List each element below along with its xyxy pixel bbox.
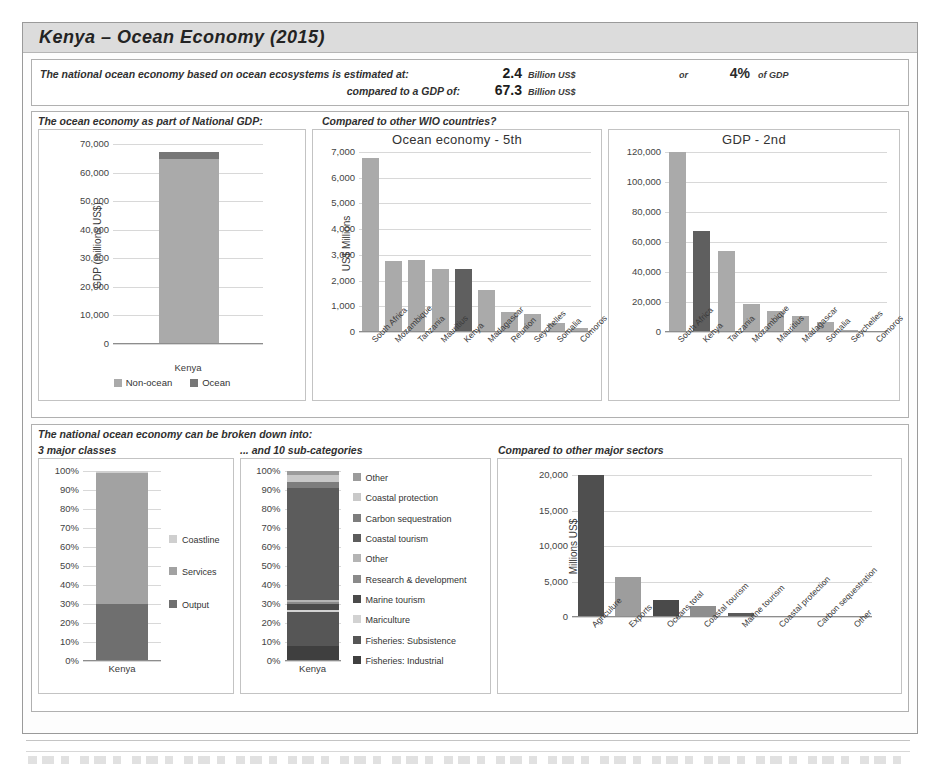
y-tick-label: 0 — [656, 326, 661, 337]
stack-segment — [96, 604, 148, 661]
page-title-band: Kenya – Ocean Economy (2015) — [23, 23, 917, 53]
summary-banner: The national ocean economy based on ocea… — [31, 59, 909, 106]
y-tick-label: 60% — [60, 541, 79, 552]
x-tick-label: Madagascar — [487, 336, 494, 343]
section-bottom-subheaders: 3 major classes ... and 10 sub-categorie… — [32, 440, 908, 456]
chart-gdp-wio: 020,00040,00060,00080,000100,000120,000 … — [665, 152, 887, 332]
stack-segment — [159, 159, 219, 344]
y-tick-label: 0 — [104, 338, 109, 349]
chart-major-sectors: Millions US$ 05,00010,00015,00020,000 Ag… — [572, 475, 872, 617]
y-tick-label: 1,000 — [331, 300, 355, 311]
legend-label: Coastal tourism — [366, 534, 429, 544]
section-national-gdp: The ocean economy as part of National GD… — [31, 111, 909, 418]
legend-item: Coastline — [169, 535, 227, 545]
legend-item: Ocean — [190, 377, 230, 388]
y-tick-label: 0 — [563, 611, 568, 622]
chart-ocean-economy-ylabel: US$ Millions — [341, 169, 352, 319]
y-tick-label: 5,000 — [544, 576, 568, 587]
y-tick-label: 30% — [262, 598, 281, 609]
x-tick-label: Other — [853, 621, 860, 628]
top-panels: GDP (millions US$) 010,00020,00030,00040… — [32, 127, 908, 407]
legend-item: Fisheries: Industrial — [353, 656, 485, 666]
legend-swatch — [353, 615, 361, 623]
legend-swatch — [353, 636, 361, 644]
legend-label: Other — [366, 473, 389, 483]
y-tick-label: 40% — [262, 579, 281, 590]
y-tick-label: 70,000 — [80, 138, 109, 149]
y-tick-label: 40% — [60, 579, 79, 590]
y-tick-label: 90% — [60, 484, 79, 495]
chart-major-sectors-categories: AgriculureExportsOceans totalCoastal tou… — [572, 621, 872, 631]
y-tick-label: 10,000 — [80, 309, 109, 320]
summary-ocean-economy-unit: Billion US$ — [528, 70, 648, 80]
x-tick-label: Mauritius — [776, 336, 783, 343]
infographic-page: Kenya – Ocean Economy (2015) The nationa… — [22, 22, 918, 734]
header-sub-categories: ... and 10 sub-categories — [240, 444, 498, 456]
y-tick-label: 50% — [60, 560, 79, 571]
legend-label: Fisheries: Industrial — [366, 656, 444, 666]
y-tick-label: 30,000 — [80, 252, 109, 263]
x-tick-label: Reunion — [510, 336, 517, 343]
stack-segment — [287, 612, 339, 646]
chart-gdp-wio-title: GDP - 2nd — [609, 130, 899, 147]
section-breakdown: The national ocean economy can be broken… — [31, 424, 909, 712]
legend-label: Ocean — [202, 377, 230, 388]
x-tick-label: Agriculure — [591, 621, 598, 628]
x-tick-label: Seychelles — [533, 336, 540, 343]
summary-row-ocean-economy: The national ocean economy based on ocea… — [40, 65, 900, 82]
legend-swatch — [169, 567, 177, 575]
x-tick-label: Oceans total — [666, 621, 673, 628]
y-gridline: 0% — [285, 661, 341, 662]
summary-or-label: or — [648, 70, 702, 80]
legend-swatch — [169, 600, 177, 608]
legend-item: Output — [169, 600, 227, 610]
y-tick-label: 50% — [262, 560, 281, 571]
legend-item: Research & development — [353, 575, 485, 585]
header-wio-comparison: Compared to other WIO countries? — [322, 115, 496, 127]
y-tick-label: 7,000 — [331, 146, 355, 157]
section-top-headers: The ocean economy as part of National GD… — [32, 112, 908, 127]
y-tick-label: 90% — [262, 484, 281, 495]
panel-gdp-stacked: GDP (millions US$) 010,00020,00030,00040… — [38, 129, 306, 401]
legend-item: Fisheries: Subsistence — [353, 636, 485, 646]
legend-item: Carbon sequestration — [353, 514, 485, 524]
y-tick-label: 10,000 — [539, 540, 568, 551]
header-breakdown: The national ocean economy can be broken… — [38, 428, 312, 440]
x-tick-label: Somalia — [556, 336, 563, 343]
y-tick-label: 60,000 — [80, 167, 109, 178]
header-major-sectors: Compared to other major sectors — [498, 444, 664, 456]
x-tick-label: Kenya — [463, 336, 470, 343]
legend-label: Output — [182, 600, 209, 610]
chart-ocean-economy-wio: US$ Millions 01,0002,0003,0004,0005,0006… — [359, 152, 591, 332]
x-tick-label: Carbon sequestration — [816, 621, 823, 628]
y-gridline: 0% — [83, 661, 161, 662]
chart-three-classes: 0%10%20%30%40%50%60%70%80%90%100% Kenya — [83, 471, 161, 661]
x-tick-label: Coastal tourism — [703, 621, 710, 628]
legend-label: Coastal protection — [366, 493, 439, 503]
x-tick-label: Tanzania — [727, 336, 734, 343]
legend-swatch — [353, 575, 361, 583]
legend-item: Coastal protection — [353, 493, 485, 503]
stacked-bar-sub-categories — [287, 471, 339, 661]
bar — [669, 152, 686, 332]
summary-share-unit: of GDP — [758, 70, 789, 80]
legend-swatch — [353, 534, 361, 542]
legend-swatch — [353, 554, 361, 562]
panel-sub-categories: 0%10%20%30%40%50%60%70%80%90%100% Kenya … — [240, 458, 491, 694]
chart-sub-categories-category: Kenya — [285, 663, 341, 674]
legend-swatch — [190, 379, 198, 387]
chart-gdp-stacked-category: Kenya — [113, 362, 263, 373]
legend-label: Coastline — [182, 535, 220, 545]
y-tick-label: 15,000 — [539, 505, 568, 516]
header-ocean-share: The ocean economy as part of National GD… — [38, 115, 322, 127]
scan-caption-artifact — [28, 756, 908, 764]
y-tick-label: 80% — [262, 503, 281, 514]
legend-label: Carbon sequestration — [366, 514, 452, 524]
y-tick-label: 50,000 — [80, 195, 109, 206]
chart-three-classes-legend: CoastlineServicesOutput — [169, 535, 227, 610]
x-tick-label: South Africa — [677, 336, 684, 343]
stack-segment — [159, 152, 219, 159]
y-tick-label: 100,000 — [627, 176, 661, 187]
bar — [362, 158, 379, 332]
y-tick-label: 5,000 — [331, 197, 355, 208]
